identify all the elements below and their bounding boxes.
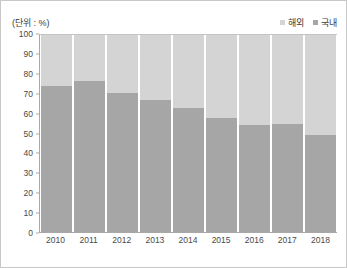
bar-group (40, 35, 337, 232)
bar-segment-overseas[interactable] (305, 35, 335, 134)
bar-segment-overseas[interactable] (206, 35, 236, 118)
x-axis-tick-label: 2013 (140, 235, 170, 255)
x-axis-tick-label: 2015 (206, 235, 236, 255)
bar-segment-overseas[interactable] (239, 35, 269, 125)
bar-segment-domestic[interactable] (140, 100, 170, 232)
y-axis-tick-label: 10 (24, 208, 33, 218)
y-axis-tick-label: 100 (19, 29, 33, 39)
y-axis-tick-label: 50 (24, 129, 33, 139)
legend-swatch-overseas (280, 20, 285, 25)
bar-segment-overseas[interactable] (272, 35, 302, 124)
bar-segment-domestic[interactable] (107, 93, 137, 232)
x-axis-tick-label: 2018 (305, 235, 335, 255)
x-axis-tick-label: 2012 (107, 235, 137, 255)
plot-area (39, 34, 337, 233)
bar-segment-domestic[interactable] (206, 118, 236, 232)
legend-swatch-domestic (313, 20, 318, 25)
legend-label-domestic: 국내 (321, 16, 337, 29)
y-axis-tick-label: 20 (24, 188, 33, 198)
bar-column[interactable] (107, 35, 137, 232)
bar-column[interactable] (74, 35, 104, 232)
y-axis-tick-label: 30 (24, 168, 33, 178)
y-axis-tick-label: 90 (24, 49, 33, 59)
bar-segment-domestic[interactable] (173, 108, 203, 232)
bar-column[interactable] (206, 35, 236, 232)
bar-segment-overseas[interactable] (140, 35, 170, 100)
bar-column[interactable] (41, 35, 71, 232)
bar-column[interactable] (305, 35, 335, 232)
y-axis: 0102030405060708090100 (1, 34, 39, 233)
x-axis-tick-label: 2014 (173, 235, 203, 255)
bar-segment-overseas[interactable] (41, 35, 71, 86)
x-axis-tick-label: 2017 (272, 235, 302, 255)
legend-label-overseas: 해외 (288, 16, 304, 29)
y-axis-tick-label: 60 (24, 109, 33, 119)
x-axis-tick-label: 2010 (40, 235, 70, 255)
y-axis-tick-label: 0 (28, 228, 33, 238)
bar-column[interactable] (173, 35, 203, 232)
legend-item-overseas[interactable]: 해외 (280, 16, 304, 29)
y-axis-tick-label: 70 (24, 89, 33, 99)
bar-segment-domestic[interactable] (239, 125, 269, 232)
bar-segment-overseas[interactable] (173, 35, 203, 108)
bar-segment-domestic[interactable] (305, 135, 335, 233)
unit-label: (단위 : %) (12, 16, 50, 29)
x-axis: 201020112012201320142015201620172018 (39, 235, 337, 255)
chart-screenshot: (단위 : %) 해외 국내 0102030405060708090100 20… (0, 0, 347, 268)
bar-column[interactable] (140, 35, 170, 232)
bar-column[interactable] (272, 35, 302, 232)
legend-item-domestic[interactable]: 국내 (313, 16, 337, 29)
bar-segment-overseas[interactable] (74, 35, 104, 81)
y-axis-tick-label: 40 (24, 148, 33, 158)
bar-segment-domestic[interactable] (41, 86, 71, 232)
bar-segment-domestic[interactable] (74, 81, 104, 232)
bar-segment-overseas[interactable] (107, 35, 137, 93)
y-axis-tick-label: 80 (24, 69, 33, 79)
chart-legend: 해외 국내 (280, 16, 337, 29)
bar-segment-domestic[interactable] (272, 124, 302, 232)
bar-column[interactable] (239, 35, 269, 232)
x-axis-tick-label: 2011 (73, 235, 103, 255)
x-axis-tick-label: 2016 (239, 235, 269, 255)
